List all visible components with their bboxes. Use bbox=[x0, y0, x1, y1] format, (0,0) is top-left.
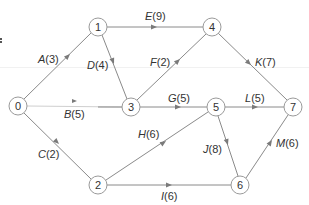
node-7: 7 bbox=[284, 98, 302, 116]
edge-B-arrow-icon bbox=[72, 99, 77, 103]
node-1: 1 bbox=[89, 18, 107, 36]
edge-label-A: A(3) bbox=[38, 53, 59, 65]
edge-label-E: E(9) bbox=[145, 10, 166, 22]
edge-label-K: K(7) bbox=[255, 56, 276, 68]
edge-label-B: B(5) bbox=[64, 108, 85, 120]
edge-label-C: C(2) bbox=[38, 148, 59, 160]
edge-H-name: H bbox=[138, 128, 146, 140]
node-2: 2 bbox=[89, 176, 107, 194]
edge-D-duration: (4) bbox=[95, 59, 108, 71]
edge-G-duration: (5) bbox=[177, 92, 190, 104]
node-6: 6 bbox=[231, 176, 249, 194]
edge-label-D: D(4) bbox=[87, 59, 108, 71]
edge-label-F: F(2) bbox=[150, 56, 170, 68]
edge-label-M: M(6) bbox=[276, 137, 299, 149]
node-4-label: 4 bbox=[209, 21, 215, 33]
edge-label-I: I(6) bbox=[161, 190, 178, 202]
node-3: 3 bbox=[122, 98, 140, 116]
node-6-label: 6 bbox=[237, 179, 243, 191]
edge-L-duration: (5) bbox=[251, 92, 264, 104]
edge-D-name: D bbox=[87, 59, 95, 71]
edge-K-duration: (7) bbox=[262, 56, 275, 68]
node-0-label: 0 bbox=[15, 100, 21, 112]
edge-E-arrow-icon bbox=[151, 25, 157, 30]
edge-A-duration: (3) bbox=[45, 53, 58, 65]
node-1-label: 1 bbox=[95, 21, 101, 33]
edge-K-line bbox=[218, 33, 287, 100]
node-5-label: 5 bbox=[213, 101, 219, 113]
edge-F-duration: (2) bbox=[157, 56, 170, 68]
edge-G-name: G bbox=[168, 92, 177, 104]
edge-I-arrow-icon bbox=[166, 183, 172, 188]
edge-B-duration: (5) bbox=[71, 108, 84, 120]
node-4: 4 bbox=[203, 18, 221, 36]
edge-F-line bbox=[137, 34, 206, 100]
edge-C-line bbox=[24, 113, 91, 179]
edge-I-duration: (6) bbox=[164, 190, 177, 202]
node-7-label: 7 bbox=[290, 101, 296, 113]
node-3-label: 3 bbox=[128, 101, 134, 113]
edge-label-G: G(5) bbox=[168, 92, 190, 104]
node-0: 0 bbox=[9, 97, 27, 115]
edge-C-arrow-icon bbox=[53, 138, 61, 146]
edge-A-line bbox=[24, 33, 91, 99]
edge-G-arrow-icon bbox=[175, 105, 181, 110]
network-diagram: 0 1 2 3 4 5 6 7 A(3) B( bbox=[0, 0, 309, 205]
node-2-label: 2 bbox=[95, 179, 101, 191]
edge-label-H: H(6) bbox=[138, 128, 159, 140]
edge-H-line bbox=[106, 112, 208, 180]
edge-E-duration: (9) bbox=[152, 10, 165, 22]
edge-H-duration: (6) bbox=[146, 128, 159, 140]
edge-C-duration: (2) bbox=[46, 148, 59, 160]
edge-M-name: M bbox=[276, 137, 285, 149]
edge-L-arrow-icon bbox=[252, 105, 258, 110]
edge-label-J: J(8) bbox=[203, 143, 222, 155]
edge-label-L: L(5) bbox=[245, 92, 265, 104]
node-5: 5 bbox=[207, 98, 225, 116]
edge-F-name: F bbox=[150, 56, 157, 68]
edge-C-name: C bbox=[38, 148, 46, 160]
edge-M-duration: (6) bbox=[285, 137, 298, 149]
edge-J-duration: (8) bbox=[209, 143, 222, 155]
